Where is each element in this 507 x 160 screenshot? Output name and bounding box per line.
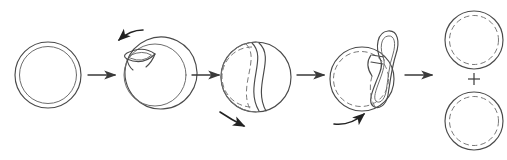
daughter-top-inner-membrane (450, 16, 499, 65)
stage1-outer-membrane (15, 42, 81, 108)
motion-arrow-scission-shaft (334, 114, 364, 124)
membrane-fission-diagram (0, 0, 507, 160)
daughter-top-outer-membrane (445, 11, 503, 69)
motion-arrow-ingression-shaft (220, 112, 244, 126)
stage-3-septum-ingression (221, 42, 291, 112)
stage-4-budding-neck (330, 31, 398, 111)
plus-symbol (468, 73, 480, 85)
stage3-septum-solid (252, 43, 259, 111)
daughter-vesicle-top (445, 11, 503, 69)
motion-arrow-ingression (220, 112, 244, 126)
stage-1-intact-vesicle (15, 42, 81, 108)
stage-5-separated-daughters (445, 11, 503, 150)
motion-arrow-invagination-shaft (119, 30, 143, 40)
stage-2-invagination-start (124, 37, 197, 109)
daughter-vesicle-bottom (445, 92, 503, 150)
daughter-bottom-inner-membrane (450, 97, 499, 146)
motion-arrow-scission (334, 114, 364, 124)
daughter-bottom-outer-membrane (445, 92, 503, 150)
stage4-neck-left-wall (368, 55, 372, 76)
motion-arrow-invagination (119, 30, 143, 40)
stage3-lobe-boundary (259, 43, 266, 111)
stage1-inner-membrane (20, 47, 77, 104)
diagram-canvas (0, 0, 507, 160)
stage3-septum-dashed (246, 44, 251, 111)
stage3-inner-membrane-left-dashed (222, 47, 252, 107)
